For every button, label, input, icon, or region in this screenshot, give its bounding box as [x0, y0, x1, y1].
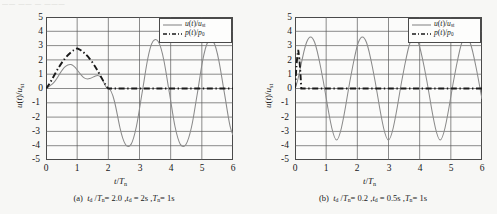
caption-a: (a) td /Tn= 2.0 ,td = 2s ,Tn= 1s — [0, 193, 248, 203]
ytick-a-0: 5 — [27, 12, 43, 22]
legend-b: u(t)/ust p(t)/p0 — [408, 18, 481, 43]
legend-item-load-a: p(t)/p0 — [162, 29, 228, 38]
ytick-a-3: 2 — [27, 55, 43, 65]
ytick-a-9: -4 — [24, 140, 40, 150]
chart-panel-b: u(t)/ust p(t)/p0 5 4 3 2 1 0 -1 -2 -3 -4… — [249, 0, 497, 214]
chart-panel-a: u(t)/ust p(t)/p0 5 4 3 2 1 0 -1 -2 -3 -4… — [0, 0, 248, 214]
xtick-a-2: 2 — [101, 163, 115, 173]
ytick-b-8: -3 — [273, 126, 289, 136]
ytick-b-1: 4 — [276, 26, 292, 36]
legend-a: u(t)/ust p(t)/p0 — [159, 18, 232, 43]
xtick-a-3: 3 — [133, 163, 147, 173]
legend-label-load-a: p(t)/p0 — [185, 29, 204, 38]
xtick-b-3: 3 — [382, 163, 396, 173]
ytick-b-10: -5 — [273, 154, 289, 164]
solid-line-icon — [162, 21, 183, 29]
xtick-a-5: 5 — [195, 163, 209, 173]
ytick-a-4: 1 — [27, 69, 43, 79]
caption-b: (b) td /Tn= 0.2 ,td = 0.5s ,Tn= 1s — [249, 193, 497, 203]
ytick-a-7: -2 — [24, 112, 40, 122]
legend-item-load-b: p(t)/p0 — [411, 29, 477, 38]
ylabel-a: u(t)/ust — [14, 84, 25, 108]
ytick-b-3: 2 — [276, 55, 292, 65]
ytick-b-4: 1 — [276, 69, 292, 79]
ytick-b-6: -1 — [273, 97, 289, 107]
dash-dot-line-icon — [162, 30, 183, 38]
xtick-b-1: 1 — [319, 163, 333, 173]
xtick-a-4: 4 — [164, 163, 178, 173]
ytick-a-1: 4 — [27, 26, 43, 36]
plot-area-a: u(t)/ust p(t)/p0 — [46, 17, 233, 160]
ytick-b-5: 0 — [276, 83, 292, 93]
xtick-b-4: 4 — [413, 163, 427, 173]
xtick-b-0: 0 — [288, 163, 302, 173]
xtick-b-5: 5 — [444, 163, 458, 173]
ytick-a-8: -3 — [24, 126, 40, 136]
ytick-b-0: 5 — [276, 12, 292, 22]
ytick-a-5: 0 — [27, 83, 43, 93]
ytick-a-10: -5 — [24, 154, 40, 164]
ylabel-b: u(t)/ust — [263, 84, 274, 108]
xtick-a-1: 1 — [70, 163, 84, 173]
xtick-b-2: 2 — [350, 163, 364, 173]
ytick-a-2: 3 — [27, 40, 43, 50]
xtick-a-6: 6 — [226, 163, 240, 173]
solid-line-icon — [411, 21, 432, 29]
ytick-b-7: -2 — [273, 112, 289, 122]
ytick-b-2: 3 — [276, 40, 292, 50]
xlabel-a: t/Tn — [114, 176, 127, 187]
dash-dot-line-icon — [411, 30, 432, 38]
figure-page: —— —— — ——— — [0, 0, 497, 214]
xlabel-b: t/Tn — [363, 176, 376, 187]
ytick-b-9: -4 — [273, 140, 289, 150]
legend-label-load-b: p(t)/p0 — [434, 29, 453, 38]
xtick-b-6: 6 — [475, 163, 489, 173]
ytick-a-6: -1 — [24, 97, 40, 107]
xtick-a-0: 0 — [39, 163, 53, 173]
plot-area-b: u(t)/ust p(t)/p0 — [295, 17, 482, 160]
